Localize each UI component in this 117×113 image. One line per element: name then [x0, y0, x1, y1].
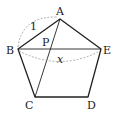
label-p: P: [42, 36, 50, 49]
label-b: B: [6, 44, 14, 57]
label-side-length: 1: [30, 20, 37, 33]
diagram-svg: A B E C D P 1 x: [0, 0, 117, 113]
label-e: E: [103, 44, 111, 57]
label-c: C: [25, 99, 33, 112]
pentagon-diagram: A B E C D P 1 x: [0, 0, 117, 113]
label-d: D: [87, 99, 96, 112]
label-a: A: [55, 5, 65, 18]
label-diagonal-x: x: [57, 53, 64, 66]
